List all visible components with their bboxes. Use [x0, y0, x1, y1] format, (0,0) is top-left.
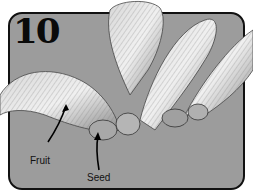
figure-panel: 10 Fruit Seed: [0, 0, 253, 192]
label-fruit: Fruit: [30, 156, 50, 166]
label-seed: Seed: [87, 173, 110, 183]
figure-number: 10: [13, 14, 58, 48]
